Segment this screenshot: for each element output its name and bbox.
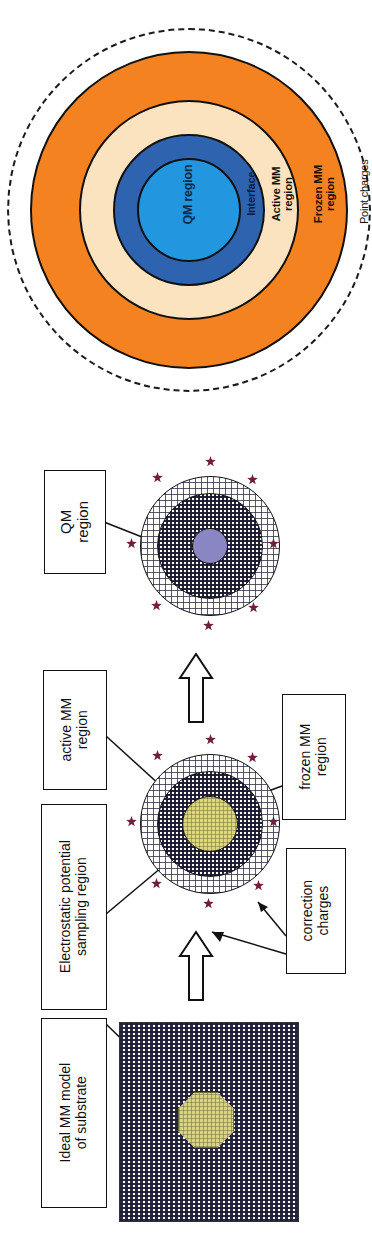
panel-concentric-regions: QM region Interface Active MM region Fro…	[0, 0, 372, 424]
substrate-inclusion	[178, 1092, 234, 1148]
label-qm-region: QM region	[182, 158, 195, 232]
label-active-mm-region: Active MM region	[270, 152, 294, 236]
correction-charge-star	[203, 620, 214, 631]
qm-region-box-label: QM region	[58, 501, 92, 543]
flow-arrow-up	[178, 652, 214, 724]
correction-charge-star	[151, 878, 162, 889]
correction-charges-box[interactable]: correction charges	[286, 848, 346, 974]
ideal-mm-box[interactable]: Ideal MM model of substrate	[41, 1018, 107, 1208]
cluster-mid-core	[182, 796, 238, 852]
label-point-charges: Point charges	[359, 149, 371, 235]
figure-root: QM region Interface Active MM region Fro…	[0, 0, 372, 1240]
correction-charge-star	[268, 816, 279, 827]
correction-charge-star	[253, 880, 264, 891]
correction-charge-star	[126, 538, 137, 549]
correction-charge-star	[268, 538, 279, 549]
cluster-qm	[140, 476, 280, 616]
correction-charge-star	[152, 472, 163, 483]
correction-charge-star	[205, 734, 216, 745]
active-mm-box-label: active MM region	[59, 698, 90, 762]
cluster-mid	[140, 754, 280, 894]
label-interface: Interface	[246, 157, 258, 231]
label-frozen-mm-region: Frozen MM region	[312, 152, 336, 236]
correction-charge-star	[247, 752, 258, 763]
frozen-mm-box[interactable]: frozen MM region	[282, 694, 346, 820]
flow-arrow-up	[178, 930, 214, 1002]
correction-charge-star	[126, 816, 137, 827]
panel-workflow: QM region active MM region frozen MM reg…	[0, 424, 372, 1240]
qm-region-box[interactable]: QM region	[44, 470, 106, 574]
frozen-mm-box-label: frozen MM region	[298, 724, 329, 790]
correction-charge-star	[203, 898, 214, 909]
correction-charge-star	[248, 602, 259, 613]
ideal-mm-box-label: Ideal MM model of substrate	[58, 1063, 89, 1163]
correction-charge-star	[152, 750, 163, 761]
cluster-qm-core	[192, 528, 228, 564]
esp-box-label: Electrostatic potential sampling region	[58, 840, 89, 973]
esp-box[interactable]: Electrostatic potential sampling region	[41, 804, 107, 1010]
correction-charges-box-label: correction charges	[300, 880, 331, 941]
correction-charge-star	[247, 474, 258, 485]
correction-charge-star	[205, 456, 216, 467]
active-mm-box[interactable]: active MM region	[43, 670, 107, 790]
correction-charge-star	[151, 600, 162, 611]
